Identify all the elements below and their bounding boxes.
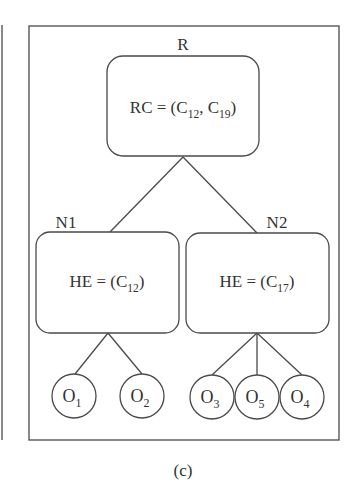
leaf-o3: O3	[190, 375, 234, 419]
edge-n1-o1	[75, 333, 108, 374]
edge-r-n1	[110, 157, 183, 232]
root-node: R RC = (C12, C19)	[107, 35, 259, 156]
tree-diagram: R RC = (C12, C19) N1 HE = (C12) N2 HE = …	[0, 0, 357, 498]
node-n1: N1 HE = (C12)	[36, 213, 179, 333]
edge-n1-o2	[108, 333, 142, 374]
node-n2: N2 HE = (C17)	[186, 213, 329, 333]
edge-n2-o3	[212, 333, 257, 375]
node-n2-label: N2	[267, 213, 288, 232]
figure-caption: (c)	[174, 461, 193, 480]
leaf-o5: O5	[235, 375, 279, 419]
leaf-o4: O4	[280, 375, 324, 419]
leaf-o1: O1	[52, 374, 96, 418]
edge-r-n2	[183, 157, 257, 233]
node-n1-label: N1	[56, 213, 77, 232]
leaf-o2: O2	[120, 374, 164, 418]
edge-n2-o4	[257, 333, 302, 375]
root-label: R	[177, 35, 189, 54]
